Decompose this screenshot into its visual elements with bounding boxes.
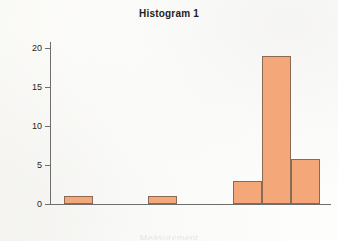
- histogram-bar: [262, 56, 291, 204]
- y-axis-tick-label: 10: [32, 121, 42, 131]
- histogram-bar: [291, 159, 320, 204]
- plot-area: 05101520: [50, 40, 331, 205]
- y-axis-tick-mark: [45, 87, 50, 88]
- y-axis-tick-label: 5: [37, 160, 42, 170]
- histogram-bar: [233, 181, 262, 204]
- histogram-bar: [148, 196, 177, 204]
- x-axis-line: [50, 204, 331, 205]
- y-axis-tick-mark: [45, 126, 50, 127]
- y-axis-tick-label: 0: [37, 199, 42, 209]
- y-axis-tick-label: 15: [32, 82, 42, 92]
- x-axis-label: Measurement: [0, 233, 338, 240]
- y-axis-line: [50, 42, 51, 205]
- y-axis-tick-mark: [45, 48, 50, 49]
- histogram-figure: Histogram 1 Frequency 05101520 Measureme…: [0, 0, 338, 241]
- y-axis-tick-mark: [45, 165, 50, 166]
- chart-title: Histogram 1: [0, 8, 338, 19]
- y-axis-tick-mark: [45, 204, 50, 205]
- y-axis-tick-label: 20: [32, 43, 42, 53]
- histogram-bar: [64, 196, 93, 204]
